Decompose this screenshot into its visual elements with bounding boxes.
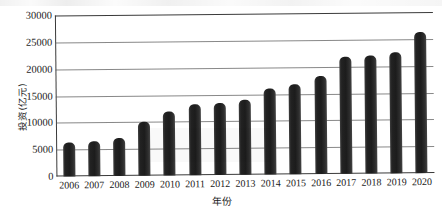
y-tick-label: 5000 — [32, 145, 53, 155]
x-tick-label: 2017 — [336, 177, 356, 189]
bar — [113, 138, 125, 176]
y-tick-label: 15000 — [26, 91, 52, 101]
x-tick-label: 2020 — [412, 176, 432, 188]
x-tick-label: 2010 — [160, 178, 180, 190]
chart-skew-wrapper: 投资(亿元) 050001000015000200002500030000 20… — [0, 0, 442, 215]
bar — [88, 141, 100, 176]
x-tick-label: 2011 — [185, 178, 205, 190]
bar — [364, 55, 377, 173]
bar — [63, 143, 75, 177]
x-tick-label: 2015 — [286, 177, 306, 189]
y-tick-label: 0 — [48, 172, 53, 182]
bar — [214, 103, 227, 176]
bar — [414, 32, 427, 173]
y-tick-label: 10000 — [27, 118, 53, 128]
y-tick-label: 30000 — [26, 11, 52, 21]
x-tick-label: 2007 — [84, 179, 104, 191]
bar — [389, 53, 402, 174]
y-axis-tick-labels: 050001000015000200002500030000 — [0, 2, 57, 215]
bar-chart: 投资(亿元) 050001000015000200002500030000 20… — [0, 0, 442, 215]
plot-area — [55, 12, 435, 177]
x-tick-label: 2008 — [109, 179, 129, 191]
x-tick-label: 2012 — [210, 178, 230, 190]
x-tick-label: 2014 — [261, 177, 281, 189]
x-tick-label: 2013 — [235, 178, 255, 190]
x-tick-label: 2018 — [361, 176, 381, 188]
bar — [289, 84, 302, 174]
bar-series — [55, 12, 435, 177]
x-tick-label: 2019 — [387, 176, 407, 188]
bar — [314, 76, 327, 174]
x-tick-label: 2006 — [59, 179, 79, 191]
bar — [264, 89, 277, 175]
y-tick-label: 20000 — [26, 64, 52, 74]
bar — [138, 122, 151, 176]
y-tick-label: 25000 — [26, 37, 52, 47]
x-axis-title: 年份 — [1, 191, 442, 210]
x-tick-label: 2009 — [135, 179, 155, 191]
bar — [188, 104, 201, 175]
x-tick-label: 2016 — [311, 177, 331, 189]
bar — [163, 111, 176, 176]
bar — [339, 57, 352, 174]
bar — [239, 100, 252, 175]
